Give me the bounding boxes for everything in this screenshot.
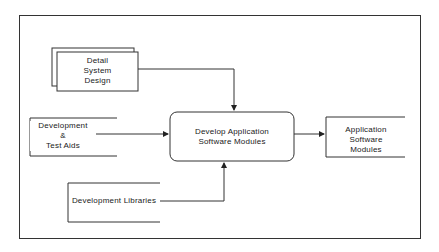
output-label: Application Software Modules bbox=[328, 125, 404, 155]
development-test-aids-label: Development & Test Aids bbox=[30, 121, 96, 151]
process-label: Develop Application Software Modules bbox=[170, 127, 294, 147]
development-libraries-label: Development Libraries bbox=[70, 196, 158, 206]
arrow-design-to-process bbox=[138, 69, 234, 110]
detail-system-design-label: Detail System Design bbox=[57, 56, 138, 86]
arrow-libraries-to-process bbox=[160, 163, 224, 201]
